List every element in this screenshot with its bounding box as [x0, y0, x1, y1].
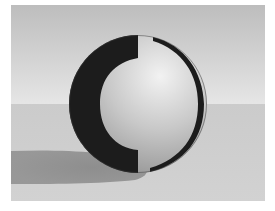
- rendered-scene: [0, 0, 275, 211]
